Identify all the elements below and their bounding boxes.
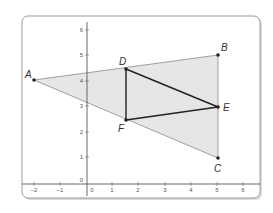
svg-text:−2: −2 bbox=[31, 187, 39, 193]
label-d: D bbox=[119, 56, 126, 67]
label-e: E bbox=[223, 102, 230, 113]
label-b: B bbox=[221, 42, 228, 53]
point-b bbox=[216, 53, 220, 57]
point-d bbox=[124, 67, 128, 71]
svg-text:−1: −1 bbox=[57, 187, 65, 193]
point-a bbox=[32, 78, 36, 82]
point-f bbox=[124, 118, 128, 122]
point-c bbox=[216, 156, 220, 160]
point-e bbox=[216, 105, 220, 109]
coordinate-plane: −2 −1 0 1 2 3 4 5 6 0 1 2 3 4 5 6 bbox=[0, 0, 273, 213]
label-c: C bbox=[214, 163, 222, 174]
label-a: A bbox=[24, 69, 32, 80]
label-f: F bbox=[118, 123, 125, 134]
